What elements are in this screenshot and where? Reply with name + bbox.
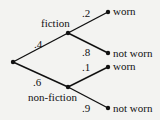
nonfiction-label: non-fiction <box>28 92 77 103</box>
fiction-worn-label: worn <box>113 6 136 17</box>
nonfiction-prob: .6 <box>33 77 41 88</box>
root-node <box>11 60 15 64</box>
nonfiction-node <box>66 85 70 89</box>
fiction-notworn-prob: .8 <box>82 47 90 58</box>
nonfiction-worn-label: worn <box>113 61 136 72</box>
nonfiction-worn-prob: .1 <box>82 62 90 73</box>
leaf-node <box>106 65 110 69</box>
leaf-node <box>106 51 110 55</box>
fiction-prob: .4 <box>34 39 42 50</box>
fiction-node <box>66 31 70 35</box>
leaf-node <box>106 106 110 110</box>
fiction-notworn-label: not worn <box>113 48 152 59</box>
leaf-node <box>106 10 110 14</box>
nonfiction-notworn-prob: .9 <box>82 103 90 114</box>
nonfiction-notworn-label: not worn <box>113 103 152 114</box>
fiction-label: fiction <box>41 18 70 29</box>
fiction-worn-prob: .2 <box>82 8 90 19</box>
